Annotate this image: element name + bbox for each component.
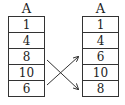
swap-arrows bbox=[0, 0, 125, 105]
arrow-down-icon bbox=[47, 60, 78, 89]
arrow-up-icon bbox=[47, 57, 78, 85]
